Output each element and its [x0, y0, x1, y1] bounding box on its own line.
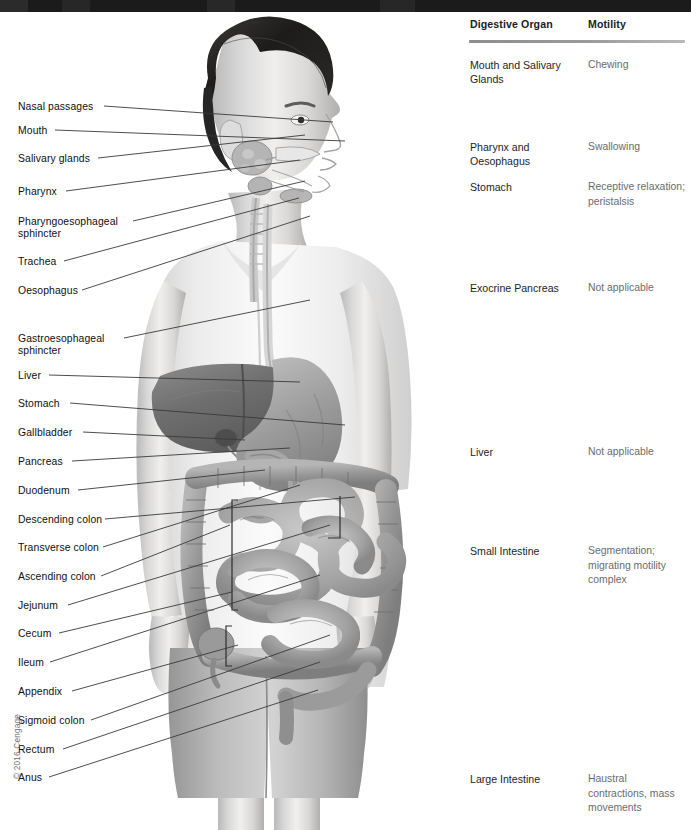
anatomy-label-list: Nasal passagesMouthSalivary glandsPharyn… [0, 0, 200, 830]
anatomy-label-gastroesophageal-sphincter: Gastroesophageal sphincter [18, 333, 105, 357]
anatomy-label-pancreas: Pancreas [18, 456, 63, 468]
anatomy-label-transverse-colon: Transverse colon [18, 542, 99, 554]
anatomy-label-gallbladder: Gallbladder [18, 427, 72, 439]
figure-page: Nasal passagesMouthSalivary glandsPharyn… [0, 0, 691, 830]
motility-cell-small-intestine: Segmentation; migrating motility complex [588, 544, 688, 588]
anatomy-label-ascending-colon: Ascending colon [18, 571, 96, 583]
copyright-notice: © 2016 Cengage [13, 702, 22, 792]
anatomy-label-cecum: Cecum [18, 628, 51, 640]
anatomy-label-appendix: Appendix [18, 686, 62, 698]
anatomy-label-rectum: Rectum [18, 744, 54, 756]
motility-cell-mouth-salivary-glands: Chewing [588, 58, 688, 73]
anatomy-label-pharyngoesophageal-sphincter: Pharyngoesophageal sphincter [18, 216, 118, 240]
organ-cell-mouth-salivary-glands: Mouth and Salivary Glands [470, 58, 588, 86]
motility-cell-stomach: Receptive relaxation; peristalsis [588, 180, 688, 209]
organ-cell-small-intestine: Small Intestine [470, 544, 588, 558]
column-header-digestive-organ: Digestive Organ [470, 18, 553, 30]
anatomy-label-descending-colon: Descending colon [18, 514, 102, 526]
anatomy-label-jejunum: Jejunum [18, 600, 58, 612]
anatomy-label-mouth: Mouth [18, 125, 47, 137]
anatomy-label-sigmoid-colon: Sigmoid colon [18, 715, 85, 727]
anatomy-label-liver: Liver [18, 370, 41, 382]
table-header-row: Digestive Organ Motility [460, 18, 691, 48]
organ-cell-liver: Liver [470, 445, 588, 459]
anatomy-label-oesophagus: Oesophagus [18, 285, 78, 297]
organ-cell-pharynx-oesophagus: Pharynx and Oesophagus [470, 140, 588, 168]
motility-table: Digestive Organ Motility Mouth and Saliv… [460, 18, 691, 830]
anatomy-label-stomach: Stomach [18, 398, 60, 410]
head-profile [203, 16, 341, 203]
anatomy-label-salivary-glands: Salivary glands [18, 153, 90, 165]
motility-cell-pharynx-oesophagus: Swallowing [588, 140, 688, 155]
motility-cell-liver: Not applicable [588, 445, 688, 460]
anatomy-label-ileum: Ileum [18, 657, 44, 669]
organ-cell-stomach: Stomach [470, 180, 588, 194]
anatomy-label-nasal-passages: Nasal passages [18, 101, 93, 113]
organ-cell-exocrine-pancreas: Exocrine Pancreas [470, 281, 588, 295]
organ-cell-large-intestine: Large Intestine [470, 772, 588, 786]
anatomy-label-pharynx: Pharynx [18, 186, 57, 198]
anatomy-label-trachea: Trachea [18, 256, 56, 268]
motility-cell-large-intestine: Haustral contractions, mass movements [588, 772, 688, 816]
column-header-motility: Motility [588, 18, 626, 30]
anatomy-label-duodenum: Duodenum [18, 485, 70, 497]
header-rule [469, 40, 685, 43]
anatomy-label-anus: Anus [18, 772, 42, 784]
motility-cell-exocrine-pancreas: Not applicable [588, 281, 688, 296]
